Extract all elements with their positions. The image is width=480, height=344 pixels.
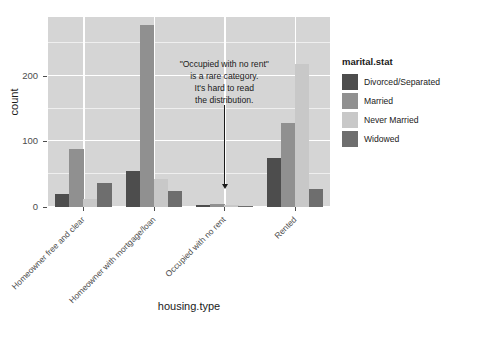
x-tick-mark (83, 207, 84, 211)
legend-swatch (342, 93, 358, 109)
x-tick-label: Rented (178, 214, 298, 334)
bar (281, 123, 296, 207)
x-tick-label: Homeowner with mortgage/loan (37, 214, 157, 334)
legend-item: Divorced/Separated (342, 72, 478, 91)
y-tick-mark (43, 207, 47, 208)
bar (97, 183, 112, 207)
legend-label: Never Married (364, 115, 418, 125)
legend: marital.stat Divorced/SeparatedMarriedNe… (342, 56, 478, 148)
legend-item: Widowed (342, 129, 478, 148)
annotation-text: "Occupied with no rent"is a rare categor… (154, 59, 294, 106)
annotation-line: "Occupied with no rent" (154, 59, 294, 71)
bar (83, 199, 98, 207)
bar (295, 64, 310, 207)
legend-swatch (342, 74, 358, 90)
bar (267, 158, 282, 207)
bar (309, 189, 324, 207)
x-tick-mark (295, 207, 296, 211)
x-tick-mark (154, 207, 155, 211)
y-tick-label: 100 (0, 135, 38, 146)
legend-swatch (342, 131, 358, 147)
y-tick-mark (43, 76, 47, 77)
bar (55, 194, 70, 207)
legend-swatch (342, 112, 358, 128)
bar (224, 205, 239, 207)
legend-label: Divorced/Separated (364, 77, 440, 87)
x-tick-mark (224, 207, 225, 211)
annotation-line: It's hard to read (154, 83, 294, 95)
bar (210, 204, 225, 207)
y-axis-title: count (8, 72, 20, 132)
gridline-minor (48, 108, 330, 109)
plot-panel: "Occupied with no rent"is a rare categor… (48, 17, 330, 207)
bar (140, 25, 155, 207)
legend-item: Never Married (342, 110, 478, 129)
y-tick-label: 200 (0, 70, 38, 81)
legend-item: Married (342, 91, 478, 110)
bar (196, 205, 211, 207)
bar (69, 149, 84, 207)
y-tick-mark (43, 141, 47, 142)
annotation-line: is a rare category. (154, 71, 294, 83)
bar (238, 206, 253, 207)
x-axis-title: housing.type (0, 300, 378, 312)
x-tick-label: Homeowner free and clear (0, 214, 87, 334)
x-tick-label: Occupied with no rent (108, 214, 228, 334)
gridline-minor (48, 42, 330, 43)
bar-chart: count 0100200 "Occupied with no rent"is … (0, 0, 480, 344)
legend-label: Widowed (364, 134, 399, 144)
bar (154, 179, 169, 207)
legend-label: Married (364, 96, 393, 106)
legend-title: marital.stat (342, 56, 478, 67)
bar (168, 191, 183, 207)
annotation-arrow-icon (224, 105, 225, 184)
bar (126, 171, 141, 207)
y-tick-label: 0 (0, 201, 38, 212)
legend-items: Divorced/SeparatedMarriedNever MarriedWi… (342, 72, 478, 148)
